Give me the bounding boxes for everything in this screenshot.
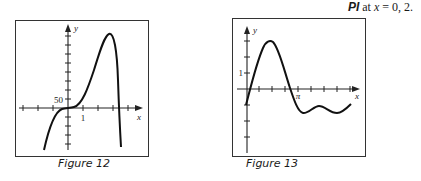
y-axis-arrow-icon [244,26,250,34]
figure-13-frame [233,19,366,157]
y-tick-label: 1 [239,68,244,78]
figure-13-plot: y x π 1 [0,0,421,181]
figure-13: y x π 1 Figure 13 [0,0,421,181]
figure-13-caption: Figure 13 [246,157,298,170]
x-tick-label: π [296,91,301,101]
x-axis-label: x [354,91,359,101]
y-axis-label: y [252,25,257,35]
figure-13-curve [246,41,351,113]
